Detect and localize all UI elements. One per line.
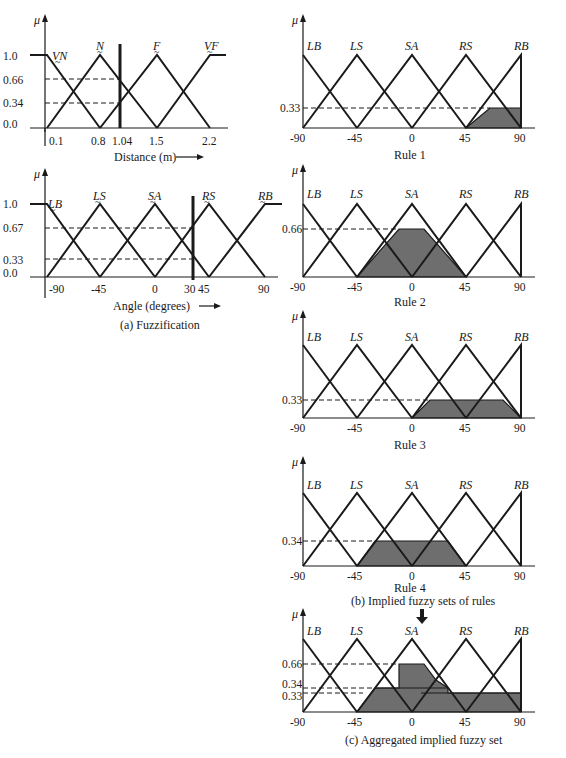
set-label: LB xyxy=(306,478,322,492)
rule-4-chart xyxy=(300,456,535,566)
mu-label: μ xyxy=(291,13,298,27)
tilde-icon: ~ xyxy=(154,46,160,57)
x-tick: -90 xyxy=(290,570,306,582)
x-tick: 0 xyxy=(152,283,158,295)
arrow-head-icon xyxy=(214,303,221,309)
y-axis-arrow-icon xyxy=(300,14,306,22)
x-tick: 45 xyxy=(198,283,210,295)
set-label: LS xyxy=(349,187,363,201)
set-vf xyxy=(157,55,226,128)
set-label: RS xyxy=(458,624,472,638)
set-label: SA xyxy=(405,39,419,53)
rule-3-clipped-area xyxy=(412,400,521,418)
set-label: SA xyxy=(405,478,419,492)
caption-fuzzification: (a) Fuzzification xyxy=(120,318,200,332)
x-tick: -45 xyxy=(347,716,363,728)
y-tick: 0.34 xyxy=(3,97,23,109)
tilde-icon: ~ xyxy=(204,196,210,207)
x-tick: -45 xyxy=(347,132,363,144)
x-tick: 0.1 xyxy=(49,135,64,147)
y-axis-arrow-icon xyxy=(42,168,48,176)
x-tick: 90 xyxy=(514,132,526,144)
x-tick: 30 xyxy=(184,283,196,295)
set-label: RS xyxy=(458,187,472,201)
set-label: LB xyxy=(306,330,322,344)
x-tick: 2.2 xyxy=(202,135,217,147)
tilde-icon: ~ xyxy=(207,46,213,57)
x-tick: 45 xyxy=(459,422,471,434)
x-tick: 1.5 xyxy=(149,135,164,147)
rule-3-chart xyxy=(300,310,535,418)
rule-3-caption: Rule 3 xyxy=(394,438,426,452)
rule-4-caption: Rule 4 xyxy=(394,581,426,595)
x-tick: -90 xyxy=(290,132,306,144)
set-label: LS xyxy=(349,330,363,344)
set-label: RB xyxy=(513,39,529,53)
x-tick: 90 xyxy=(514,281,526,293)
set-label: LS xyxy=(349,478,363,492)
output-x-ticks: -90 -45 0 45 90 -90 -45 0 45 90 -90 -45 … xyxy=(290,132,526,728)
x-tick: 90 xyxy=(514,716,526,728)
set-rs xyxy=(155,204,265,277)
set-label: RS xyxy=(458,478,472,492)
x-tick: -45 xyxy=(91,283,107,295)
x-tick: 0 xyxy=(409,716,415,728)
set-label: RB xyxy=(513,187,529,201)
distance-axis-label: Distance (m) xyxy=(114,150,176,164)
x-tick: 0 xyxy=(409,281,415,293)
y-tick: 0.0 xyxy=(3,267,18,279)
y-tick: 0.33 xyxy=(3,254,23,266)
rule-2-caption: Rule 2 xyxy=(394,295,426,309)
tilde-icon: ~ xyxy=(150,196,156,207)
x-tick: 90 xyxy=(258,283,270,295)
mu-label: μ xyxy=(291,163,298,177)
caption-aggregated: (c) Aggregated implied fuzzy set xyxy=(345,733,503,747)
x-tick: -90 xyxy=(290,281,306,293)
y-tick: 0.66 xyxy=(3,74,23,86)
set-ls xyxy=(47,204,155,277)
x-tick: 0 xyxy=(409,422,415,434)
rule-1-chart xyxy=(300,14,535,128)
set-label: RB xyxy=(513,330,529,344)
angle-mu-label: μ xyxy=(33,167,40,181)
x-tick: -90 xyxy=(290,716,306,728)
x-tick: 1.04 xyxy=(112,135,132,147)
x-tick: -45 xyxy=(347,570,363,582)
mu-label: μ xyxy=(291,309,298,323)
x-tick: 0.8 xyxy=(91,135,106,147)
x-tick: 45 xyxy=(459,132,471,144)
x-tick: 45 xyxy=(459,281,471,293)
distance-mu-label: μ xyxy=(33,13,40,27)
y-tick: 0.0 xyxy=(3,118,18,130)
arrow-head-icon xyxy=(197,154,204,160)
x-tick: 90 xyxy=(514,422,526,434)
set-label: SA xyxy=(405,187,419,201)
set-label: RB xyxy=(513,624,529,638)
distance-membership-chart: μ 1.0 0.66 0.34 0.0 VN ~ N ~ F ~ VF ~ 0.… xyxy=(3,13,228,164)
tilde-icon: ~ xyxy=(55,56,61,67)
x-tick: 0 xyxy=(409,132,415,144)
y-tick: 1.0 xyxy=(3,50,18,62)
set-label: RS xyxy=(458,39,472,53)
rule-3-level-label: 0.33 xyxy=(282,394,302,406)
rule-4-level-label: 0.34 xyxy=(282,535,302,547)
set-vn xyxy=(30,55,100,128)
set-lb xyxy=(30,204,100,277)
x-tick: -90 xyxy=(49,283,65,295)
agg-level-label: 0.33 xyxy=(282,690,302,702)
set-f xyxy=(100,55,210,128)
x-tick: -45 xyxy=(347,422,363,434)
rule-2-level-label: 0.66 xyxy=(282,223,302,235)
set-label: RS xyxy=(458,330,472,344)
fuzzy-logic-figure: μ 1.0 0.66 0.34 0.0 VN ~ N ~ F ~ VF ~ 0.… xyxy=(0,0,566,758)
y-axis-arrow-icon xyxy=(300,164,306,172)
set-n xyxy=(47,55,157,128)
caption-implied-sets: (b) Implied fuzzy sets of rules xyxy=(351,594,496,608)
x-tick: -45 xyxy=(347,281,363,293)
tilde-icon: ~ xyxy=(97,46,103,57)
y-axis-arrow-icon xyxy=(42,14,48,22)
rule-2-chart xyxy=(300,164,535,277)
y-axis-arrow-icon xyxy=(300,608,306,616)
agg-level-label: 0.66 xyxy=(282,658,302,670)
tilde-icon: ~ xyxy=(50,204,56,215)
